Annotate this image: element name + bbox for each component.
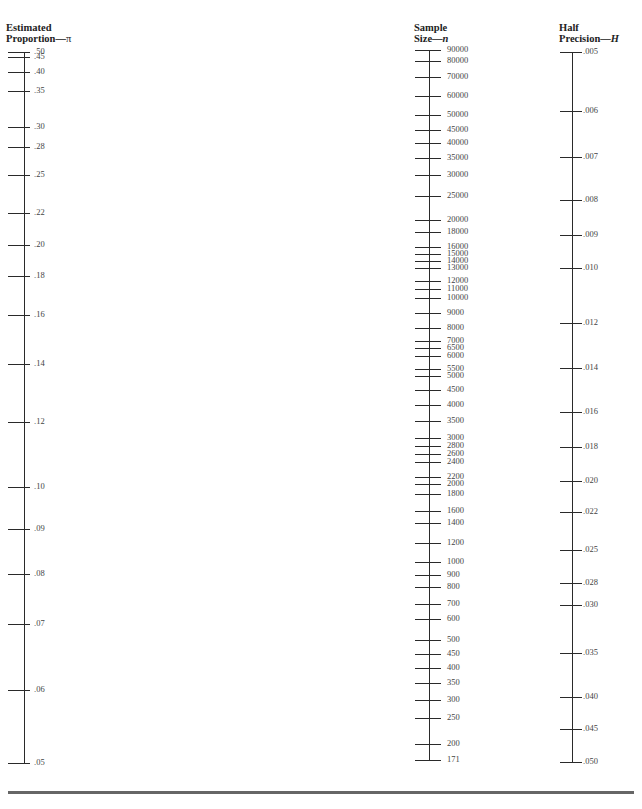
tick-label: 3500 <box>447 416 464 425</box>
tick-label: .30 <box>34 122 45 131</box>
tick-label: .009 <box>583 230 598 239</box>
tick-label: .016 <box>583 407 598 416</box>
tick-mark <box>8 315 30 316</box>
tick-label: .040 <box>583 692 598 701</box>
tick-mark <box>560 268 582 269</box>
tick-label: 60000 <box>447 91 468 100</box>
tick-label: 200 <box>447 739 460 748</box>
tick-mark <box>415 61 441 62</box>
tick-label: 6000 <box>447 351 464 360</box>
tick-label: 1600 <box>447 506 464 515</box>
tick-mark <box>415 587 441 588</box>
tick-mark <box>415 196 441 197</box>
bottom-rule <box>8 791 634 794</box>
tick-mark <box>8 91 30 92</box>
tick-mark <box>415 438 441 439</box>
tick-mark <box>415 369 441 370</box>
tick-label: .28 <box>34 142 45 151</box>
tick-label: .014 <box>583 363 598 372</box>
tick-label: 13000 <box>447 263 468 272</box>
tick-label: .22 <box>34 208 45 217</box>
tick-label: .025 <box>583 545 598 554</box>
tick-mark <box>415 175 441 176</box>
tick-mark <box>415 575 441 576</box>
axis-heading-text: Precision— <box>559 33 611 44</box>
tick-mark <box>415 328 441 329</box>
tick-mark <box>415 313 441 314</box>
tick-label: 1000 <box>447 557 464 566</box>
tick-mark <box>415 744 441 745</box>
tick-mark <box>415 247 441 248</box>
tick-mark <box>415 619 441 620</box>
tick-mark <box>415 376 441 377</box>
tick-mark <box>8 574 30 575</box>
tick-mark <box>415 96 441 97</box>
tick-label: 900 <box>447 570 460 579</box>
tick-mark <box>560 235 582 236</box>
tick-label: 4000 <box>447 400 464 409</box>
tick-mark <box>8 763 30 764</box>
tick-mark <box>415 562 441 563</box>
tick-mark <box>415 348 441 349</box>
tick-label: .35 <box>34 86 45 95</box>
tick-label: 9000 <box>447 308 464 317</box>
tick-mark <box>415 341 441 342</box>
tick-label: 171 <box>447 755 460 764</box>
tick-label: 80000 <box>447 56 468 65</box>
tick-label: .18 <box>34 271 45 280</box>
tick-mark <box>8 364 30 365</box>
tick-label: 700 <box>447 599 460 608</box>
axis-line <box>24 52 25 763</box>
axis-heading-line1: Estimated <box>6 22 71 33</box>
tick-label: 400 <box>447 663 460 672</box>
tick-label: 25000 <box>447 191 468 200</box>
tick-mark <box>415 494 441 495</box>
tick-mark <box>415 511 441 512</box>
tick-mark <box>415 462 441 463</box>
tick-label: 500 <box>447 635 460 644</box>
tick-label: 600 <box>447 614 460 623</box>
tick-mark <box>560 729 582 730</box>
tick-mark <box>415 356 441 357</box>
tick-label: .050 <box>583 757 598 766</box>
tick-mark <box>415 220 441 221</box>
tick-label: .007 <box>583 152 598 161</box>
tick-mark <box>560 111 582 112</box>
tick-mark <box>415 232 441 233</box>
tick-mark <box>560 200 582 201</box>
axis-heading-line1: Half <box>559 22 619 33</box>
tick-mark <box>560 550 582 551</box>
tick-label: .045 <box>583 724 598 733</box>
tick-label: 1400 <box>447 518 464 527</box>
tick-label: 4500 <box>447 385 464 394</box>
tick-mark <box>415 115 441 116</box>
tick-mark <box>560 447 582 448</box>
tick-label: 450 <box>447 649 460 658</box>
tick-label: .018 <box>583 442 598 451</box>
tick-label: .09 <box>34 524 45 533</box>
tick-mark <box>560 583 582 584</box>
tick-label: 350 <box>447 678 460 687</box>
tick-mark <box>8 147 30 148</box>
tick-label: 90000 <box>447 45 468 54</box>
axis-heading: SampleSize—n <box>414 22 448 44</box>
tick-label: .06 <box>34 685 45 694</box>
axis-symbol: H <box>611 33 619 44</box>
axis-heading-line1: Sample <box>414 22 448 33</box>
tick-mark <box>415 77 441 78</box>
tick-mark <box>415 484 441 485</box>
axis-symbol: n <box>443 33 449 44</box>
tick-mark <box>560 481 582 482</box>
tick-label: 1200 <box>447 538 464 547</box>
tick-label: .030 <box>583 600 598 609</box>
tick-label: 20000 <box>447 215 468 224</box>
tick-mark <box>415 760 441 761</box>
tick-mark <box>415 261 441 262</box>
tick-label: .005 <box>583 47 598 56</box>
tick-mark <box>8 127 30 128</box>
tick-mark <box>8 52 30 53</box>
tick-mark <box>415 281 441 282</box>
tick-label: .006 <box>583 106 598 115</box>
tick-mark <box>415 654 441 655</box>
tick-label: 250 <box>447 713 460 722</box>
